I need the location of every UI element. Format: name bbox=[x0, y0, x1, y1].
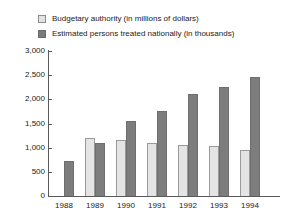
bar-budgetary-authority bbox=[147, 143, 157, 196]
y-axis-tick-label: 3,000 bbox=[25, 46, 45, 55]
y-axis-tick-label: 2,500 bbox=[25, 70, 45, 79]
bar-estimated-persons-treated bbox=[95, 143, 105, 196]
x-axis-label: 1990 bbox=[111, 201, 141, 210]
bar-estimated-persons-treated bbox=[250, 77, 260, 196]
bar-chart: Budgetary authority (in millions of doll… bbox=[0, 0, 286, 222]
legend-label-estimated-persons-treated: Estimated persons treated nationally (in… bbox=[52, 29, 234, 38]
bar-estimated-persons-treated bbox=[157, 111, 167, 196]
legend-swatch-light-icon bbox=[38, 15, 46, 23]
x-axis-label: 1993 bbox=[204, 201, 234, 210]
bar-budgetary-authority bbox=[85, 138, 95, 196]
chart-legend: Budgetary authority (in millions of doll… bbox=[38, 12, 278, 42]
y-axis-tick-mark bbox=[48, 196, 52, 197]
x-axis-label: 1988 bbox=[49, 201, 79, 210]
y-axis-tick-label: 500 bbox=[32, 167, 45, 176]
x-axis-line bbox=[48, 196, 280, 197]
plot-area bbox=[48, 51, 280, 196]
bar-estimated-persons-treated bbox=[188, 94, 198, 196]
legend-label-budgetary-authority: Budgetary authority (in millions of doll… bbox=[52, 14, 199, 23]
bar-estimated-persons-treated bbox=[64, 161, 74, 196]
bar-budgetary-authority bbox=[240, 150, 250, 196]
x-axis-label: 1989 bbox=[80, 201, 110, 210]
bar-budgetary-authority bbox=[178, 145, 188, 196]
bar-budgetary-authority bbox=[116, 140, 126, 196]
y-axis-tick-label: 0 bbox=[41, 191, 45, 200]
x-axis-label: 1991 bbox=[142, 201, 172, 210]
x-axis-label: 1992 bbox=[173, 201, 203, 210]
bar-estimated-persons-treated bbox=[219, 87, 229, 196]
legend-item-estimated-persons-treated: Estimated persons treated nationally (in… bbox=[38, 27, 278, 40]
y-axis-tick-label: 2,000 bbox=[25, 94, 45, 103]
y-axis-tick-label: 1,500 bbox=[25, 119, 45, 128]
legend-swatch-dark-icon bbox=[38, 30, 46, 38]
x-axis-label: 1994 bbox=[235, 201, 265, 210]
bar-estimated-persons-treated bbox=[126, 121, 136, 196]
y-axis-tick-label: 1,000 bbox=[25, 143, 45, 152]
legend-item-budgetary-authority: Budgetary authority (in millions of doll… bbox=[38, 12, 278, 25]
bar-budgetary-authority bbox=[209, 146, 219, 196]
